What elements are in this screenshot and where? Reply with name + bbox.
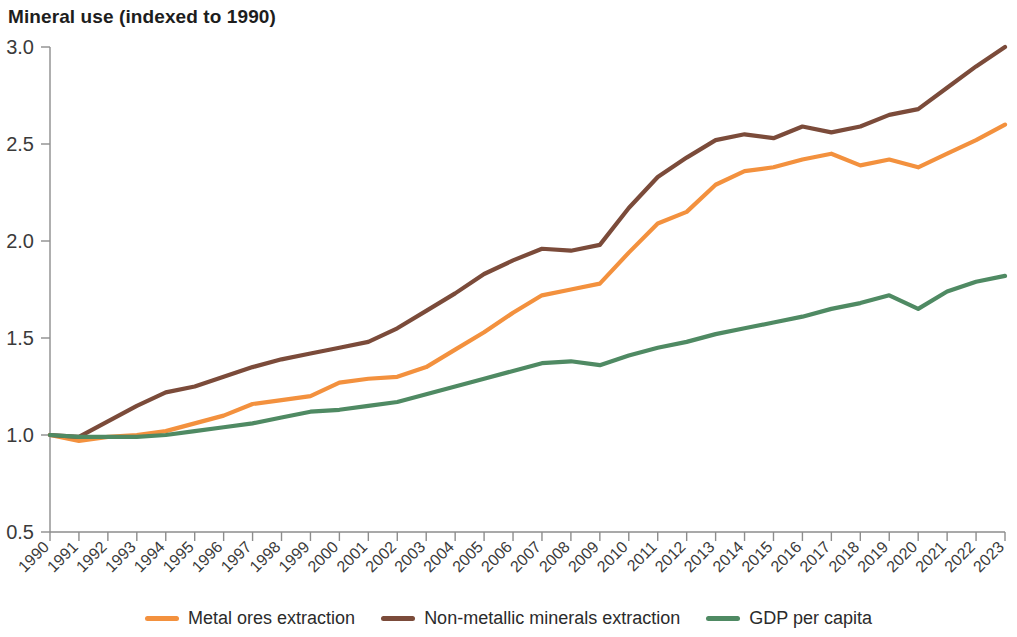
x-tick-label: 2008 [536, 538, 573, 575]
x-tick-label: 2007 [507, 538, 544, 575]
x-axis: 1990199119921993199419951996199719981999… [15, 532, 1007, 575]
series-line-non-metallic-minerals-extraction [50, 47, 1005, 437]
line-chart-plot: 0.51.01.52.02.53.0 199019911992199319941… [0, 0, 1017, 637]
x-tick-label: 1994 [131, 538, 168, 575]
x-tick-label: 2023 [970, 538, 1007, 575]
x-tick-label: 2013 [681, 538, 718, 575]
x-tick-label: 2015 [738, 538, 775, 575]
x-tick-label: 2011 [623, 538, 659, 574]
x-tick-label: 2006 [478, 538, 515, 575]
legend-item[interactable]: Metal ores extraction [145, 608, 355, 629]
y-axis: 0.51.01.52.02.53.0 [6, 36, 50, 543]
x-tick-label: 2017 [796, 538, 833, 575]
x-tick-label: 2021 [912, 538, 949, 575]
x-tick-label: 2022 [941, 538, 978, 575]
x-tick-label: 2002 [362, 538, 399, 575]
y-tick-label: 1.0 [6, 424, 34, 446]
x-tick-label: 1997 [218, 538, 255, 575]
x-tick-label: 2018 [825, 538, 862, 575]
x-tick-label: 2016 [767, 538, 804, 575]
x-tick-label: 2001 [333, 538, 370, 575]
x-tick-label: 2019 [854, 538, 891, 575]
x-tick-label: 2020 [883, 538, 920, 575]
legend-color-swatch [706, 616, 740, 621]
legend-item[interactable]: GDP per capita [706, 608, 872, 629]
y-tick-label: 0.5 [6, 521, 34, 543]
legend-color-swatch [145, 616, 179, 621]
x-tick-label: 1996 [189, 538, 226, 575]
y-tick-label: 1.5 [6, 327, 34, 349]
series-lines [50, 47, 1005, 441]
y-tick-label: 3.0 [6, 36, 34, 58]
x-tick-label: 2005 [449, 538, 486, 575]
x-tick-label: 1993 [102, 538, 139, 575]
x-tick-label: 2003 [391, 538, 428, 575]
series-line-gdp-per-capita [50, 276, 1005, 437]
y-tick-label: 2.0 [6, 230, 34, 252]
chart-container: Mineral use (indexed to 1990) 0.51.01.52… [0, 0, 1017, 637]
legend-item[interactable]: Non-metallic minerals extraction [381, 608, 680, 629]
series-line-metal-ores-extraction [50, 125, 1005, 441]
legend-label: Non-metallic minerals extraction [424, 608, 680, 629]
x-tick-label: 1998 [246, 538, 283, 575]
x-tick-label: 2009 [565, 538, 602, 575]
legend-label: GDP per capita [749, 608, 872, 629]
x-tick-label: 1999 [275, 538, 312, 575]
x-tick-label: 2004 [420, 538, 457, 575]
x-tick-label: 1992 [73, 538, 110, 575]
x-tick-label: 2000 [304, 538, 341, 575]
y-tick-label: 2.5 [6, 133, 34, 155]
x-tick-label: 1991 [44, 538, 81, 575]
x-tick-label: 1990 [15, 538, 52, 575]
x-tick-label: 2012 [652, 538, 689, 575]
chart-legend: Metal ores extractionNon-metallic minera… [0, 608, 1017, 629]
legend-color-swatch [381, 616, 415, 621]
x-tick-label: 1995 [160, 538, 197, 575]
x-tick-label: 2014 [709, 538, 746, 575]
x-tick-label: 2010 [594, 538, 631, 575]
legend-label: Metal ores extraction [188, 608, 355, 629]
